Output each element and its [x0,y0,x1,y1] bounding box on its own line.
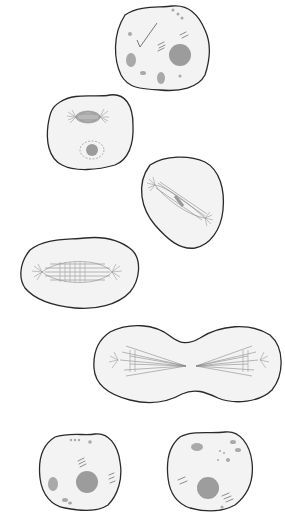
cell-metaphase [21,238,139,309]
cell-interphase [115,6,209,91]
cell-daughter-right [168,432,253,511]
mitosis-diagram [0,0,285,518]
cell-anaphase [94,326,281,403]
cell-daughter-left [40,434,121,510]
cell-prometaphase [142,157,224,248]
cell-prophase [47,95,133,170]
